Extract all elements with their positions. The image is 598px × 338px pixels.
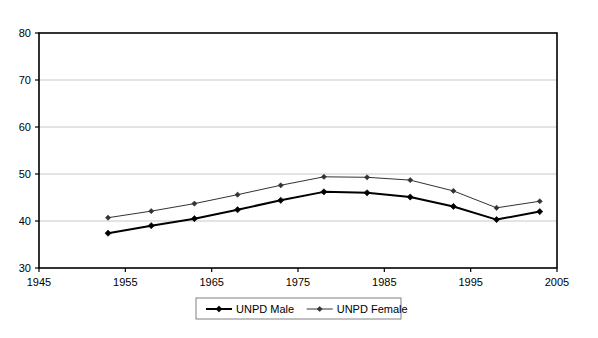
line-chart: 304050607080 194519551965197519851995200… — [0, 0, 598, 338]
x-tick-label-1995: 1995 — [458, 276, 482, 288]
y-tick-label-60: 60 — [19, 121, 31, 133]
chart-legend[interactable]: UNPD MaleUNPD Female — [196, 298, 408, 319]
x-tick-label-1975: 1975 — [286, 276, 310, 288]
y-tick-label-50: 50 — [19, 168, 31, 180]
x-tick-label-2005: 2005 — [545, 276, 569, 288]
y-tick-label-80: 80 — [19, 27, 31, 39]
y-tick-label-30: 30 — [19, 262, 31, 274]
x-tick-label-1955: 1955 — [113, 276, 137, 288]
x-tick-label-1965: 1965 — [199, 276, 223, 288]
y-tick-label-70: 70 — [19, 74, 31, 86]
x-tick-label-1945: 1945 — [27, 276, 51, 288]
y-tick-label-40: 40 — [19, 215, 31, 227]
chart-container: 304050607080 194519551965197519851995200… — [0, 0, 598, 338]
x-tick-label-1985: 1985 — [372, 276, 396, 288]
legend-label-1[interactable]: UNPD Female — [337, 303, 408, 315]
legend-label-0[interactable]: UNPD Male — [236, 303, 294, 315]
